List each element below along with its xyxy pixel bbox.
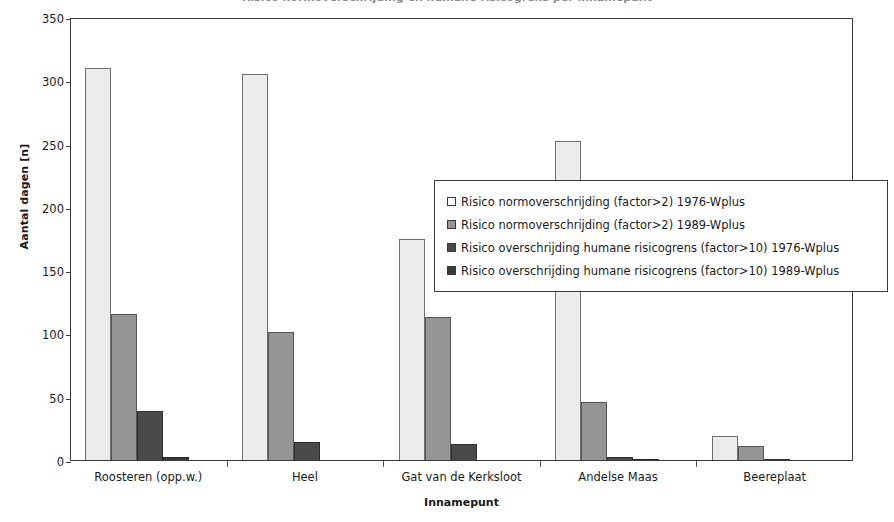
x-axis-tick-label: Beereplaat — [743, 470, 806, 484]
x-axis-tick-label: Roosteren (opp.w.) — [94, 470, 202, 484]
x-axis-category-separator — [227, 461, 228, 467]
legend-item: Risico overschrijding humane risicogrens… — [447, 236, 877, 259]
bar — [137, 411, 163, 460]
y-axis-tick-mark — [66, 462, 71, 463]
bar — [111, 314, 137, 460]
bar — [294, 442, 320, 460]
legend-swatch-icon — [447, 243, 456, 252]
legend-item-label: Risico overschrijding humane risicogrens… — [461, 264, 839, 278]
x-axis-tick-label: Heel — [292, 470, 318, 484]
x-axis-title: Innamepunt — [70, 496, 853, 509]
bar — [425, 317, 451, 460]
bar — [399, 239, 425, 461]
legend-item-label: Risico overschrijding humane risicogrens… — [461, 241, 839, 255]
bar — [163, 457, 189, 460]
bar — [451, 444, 477, 460]
y-axis-title: Aantal dagen [n] — [18, 97, 31, 297]
legend-swatch-icon — [447, 220, 456, 229]
x-axis-tick-label: Andelse Maas — [578, 470, 657, 484]
x-axis-tick-label: Gat van de Kerksloot — [401, 470, 521, 484]
bar — [712, 436, 738, 460]
bar — [85, 68, 111, 460]
bar-group — [85, 19, 189, 460]
bar-group — [242, 19, 346, 460]
bar — [738, 446, 764, 460]
chart-title-text: Risico normoverschrijding en humane risi… — [0, 0, 894, 5]
legend-item: Risico overschrijding humane risicogrens… — [447, 259, 877, 282]
legend-swatch-icon — [447, 266, 456, 275]
x-axis-category-separator — [696, 461, 697, 467]
bar-chart-figure: Risico normoverschrijding en humane risi… — [0, 0, 894, 522]
legend-item-label: Risico normoverschrijding (factor>2) 197… — [461, 195, 745, 209]
legend-item-label: Risico normoverschrijding (factor>2) 198… — [461, 218, 745, 232]
chart-legend: Risico normoverschrijding (factor>2) 197… — [434, 180, 888, 292]
bar — [268, 332, 294, 460]
chart-title-clipped: Risico normoverschrijding en humane risi… — [0, 0, 894, 5]
x-axis-category-separator — [383, 461, 384, 467]
legend-item: Risico normoverschrijding (factor>2) 198… — [447, 213, 877, 236]
bar — [242, 74, 268, 460]
legend-item: Risico normoverschrijding (factor>2) 197… — [447, 190, 877, 213]
bar — [581, 402, 607, 460]
bar — [633, 459, 659, 461]
legend-swatch-icon — [447, 197, 456, 206]
bar — [764, 459, 790, 461]
bar — [607, 457, 633, 460]
x-axis-category-separator — [540, 461, 541, 467]
